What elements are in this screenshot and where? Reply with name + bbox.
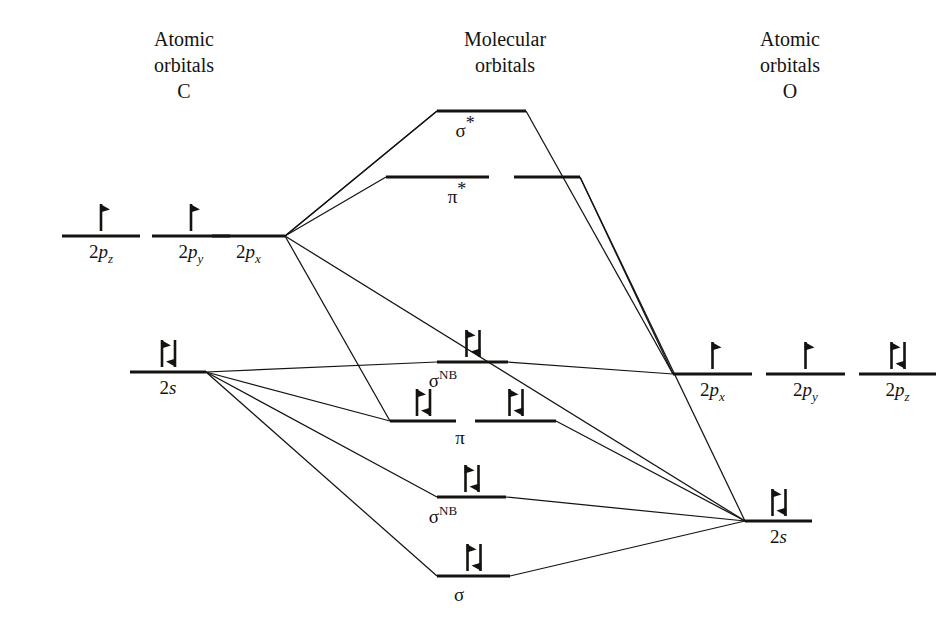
mo-diagram-root: Atomic orbitals C Molecular orbitals Ato… — [0, 0, 949, 617]
orbital-labels-group: 2pz2py2px2s2px2py2pz2sσ*π*σNBπσNBσ — [89, 113, 910, 605]
header-right-line2: orbitals — [760, 54, 820, 76]
header-left-line2: orbitals — [154, 54, 214, 76]
header-left-element: C — [177, 80, 190, 102]
orbital-label-o-2px: 2px — [700, 379, 725, 404]
orbital-label-mo-sigma-nb-upper: σNB — [429, 367, 458, 391]
header-center-line1: Molecular — [464, 28, 547, 50]
electrons-o-2py — [805, 342, 815, 369]
electron-arrows-group — [100, 204, 905, 571]
correlation-line — [508, 362, 673, 374]
header-right-atomic-orbitals-o: Atomic orbitals O — [760, 28, 820, 102]
correlation-line — [206, 372, 437, 497]
header-right-element: O — [783, 80, 797, 102]
correlation-line — [556, 421, 745, 521]
electron-arrow-up — [100, 204, 110, 231]
electrons-mo-sigma-nb-lower-seg1 — [465, 465, 480, 492]
orbital-label-o-2pz: 2pz — [885, 379, 909, 404]
electron-arrow-up — [805, 342, 815, 369]
orbital-label-c-2pz: 2pz — [89, 241, 113, 266]
orbital-label-mo-pi: π — [455, 427, 465, 448]
electron-arrow-up — [712, 342, 722, 369]
orbital-label-c-2px: 2px — [236, 241, 261, 266]
correlation-line — [285, 111, 437, 236]
correlation-line — [285, 177, 386, 236]
electrons-mo-sigma-seg1 — [467, 544, 482, 571]
correlation-lines-group — [206, 111, 745, 576]
orbital-label-mo-sigma: σ — [454, 584, 464, 605]
orbital-label-mo-sigma-star: σ* — [455, 113, 474, 141]
orbital-label-c-2s: 2s — [160, 377, 177, 398]
correlation-line — [510, 521, 745, 576]
electrons-c-2py — [190, 204, 200, 231]
molecular-orbital-diagram: Atomic orbitals C Molecular orbitals Ato… — [0, 0, 949, 617]
orbital-label-mo-pi-star: π* — [448, 179, 467, 207]
correlation-line — [506, 497, 745, 521]
orbital-label-o-2s: 2s — [770, 526, 787, 547]
orbital-label-mo-sigma-nb-lower: σNB — [429, 503, 458, 527]
correlation-line — [285, 236, 390, 421]
header-left-atomic-orbitals-c: Atomic orbitals C — [154, 28, 214, 102]
electrons-o-2pz — [891, 342, 906, 369]
electron-arrow-up — [190, 204, 200, 231]
correlation-line — [526, 111, 673, 374]
orbital-label-o-2py: 2py — [793, 379, 818, 404]
electrons-c-2s — [161, 340, 176, 367]
electrons-mo-pi-seg2 — [509, 389, 524, 416]
header-right-line1: Atomic — [760, 28, 820, 50]
electrons-o-2px — [712, 342, 722, 369]
header-center-line2: orbitals — [475, 54, 535, 76]
electrons-o-2s — [772, 489, 787, 516]
correlation-line — [206, 362, 437, 372]
header-left-line1: Atomic — [154, 28, 214, 50]
electrons-c-2pz — [100, 204, 110, 231]
orbital-label-c-2py: 2py — [179, 241, 204, 266]
electrons-mo-pi-seg1 — [416, 389, 431, 416]
header-center-molecular-orbitals: Molecular orbitals — [464, 28, 547, 76]
